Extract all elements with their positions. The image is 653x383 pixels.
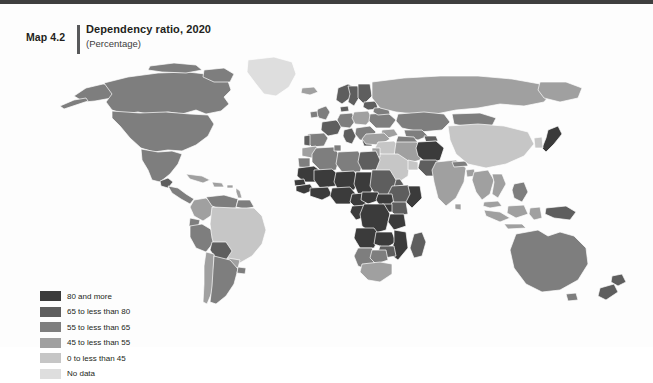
legend-swatch [40, 369, 61, 379]
region-japan [542, 126, 562, 152]
region-malaysia [483, 201, 502, 208]
region-puerto-rico [227, 185, 233, 188]
region-lesser-antilles [236, 188, 242, 198]
region-indonesia-java [504, 224, 526, 229]
region-indonesia-sulawesi [529, 207, 542, 220]
map-legend: 80 and more 65 to less than 80 55 to les… [40, 289, 240, 383]
title-divider [77, 25, 80, 54]
legend-swatch [40, 338, 61, 348]
legend-item: 0 to less than 45 [40, 351, 240, 367]
region-australia [510, 230, 588, 292]
region-new-zealand-south [598, 284, 618, 300]
legend-label: 65 to less than 80 [67, 306, 130, 317]
region-finland [358, 84, 372, 104]
region-egypt [358, 151, 380, 170]
region-canada-arctic-isles [148, 63, 202, 73]
legend-item: No data [40, 367, 240, 383]
legend-item: 80 and more [40, 289, 240, 305]
region-cote-divoire-ghana [310, 187, 332, 200]
region-russian-federation [372, 76, 552, 114]
region-iceland [301, 87, 318, 95]
region-philippines [512, 182, 528, 202]
region-united-kingdom [316, 106, 330, 120]
region-papua-new-guinea [545, 206, 576, 220]
region-korea [534, 137, 543, 148]
region-hispaniola [212, 182, 224, 187]
region-tunisia [334, 145, 341, 151]
region-poland [352, 111, 372, 125]
region-italy [343, 128, 356, 144]
legend-swatch [40, 322, 61, 332]
region-portugal [304, 135, 310, 146]
map-canvas [0, 52, 653, 322]
region-tanzania [388, 214, 406, 230]
legend-label: 55 to less than 65 [67, 322, 130, 333]
region-vietnam [492, 174, 506, 198]
region-tasmania [566, 293, 578, 301]
map-number: Map 4.2 [26, 31, 65, 43]
region-united-states [112, 111, 214, 152]
legend-label: 80 and more [67, 291, 112, 302]
legend-item: 45 to less than 55 [40, 336, 240, 352]
region-cuba [186, 174, 210, 183]
legend-item: 65 to less than 80 [40, 305, 240, 321]
region-ireland [310, 111, 318, 118]
region-madagascar [410, 232, 426, 258]
world-choropleth-map: 80 and more 65 to less than 80 55 to les… [0, 52, 653, 322]
region-sri-lanka [455, 204, 461, 210]
region-central-america [168, 186, 194, 204]
legend-swatch [40, 291, 61, 301]
region-south-africa [360, 262, 392, 282]
region-india [432, 160, 466, 206]
legend-item: 55 to less than 65 [40, 320, 240, 336]
region-uruguay [237, 267, 246, 274]
map-title: Dependency ratio, 2020 [86, 23, 211, 35]
region-indonesia-sumatra [484, 210, 510, 222]
region-gulf-states [408, 160, 418, 170]
region-mexico [141, 149, 182, 182]
region-kazakhstan [396, 112, 450, 132]
legend-label: 45 to less than 55 [67, 337, 130, 348]
map-subtitle: (Percentage) [86, 38, 141, 49]
legend-swatch [40, 307, 61, 317]
region-greenland [247, 57, 296, 96]
region-indonesia-borneo [507, 205, 528, 218]
top-rule [0, 0, 653, 4]
legend-swatch [40, 353, 61, 363]
region-aleutians [60, 98, 88, 109]
region-denmark [340, 106, 349, 112]
region-ukraine [369, 113, 396, 128]
legend-label: No data [67, 368, 95, 379]
legend-label: 0 to less than 45 [67, 353, 126, 364]
region-myanmar-thailand [472, 170, 494, 200]
